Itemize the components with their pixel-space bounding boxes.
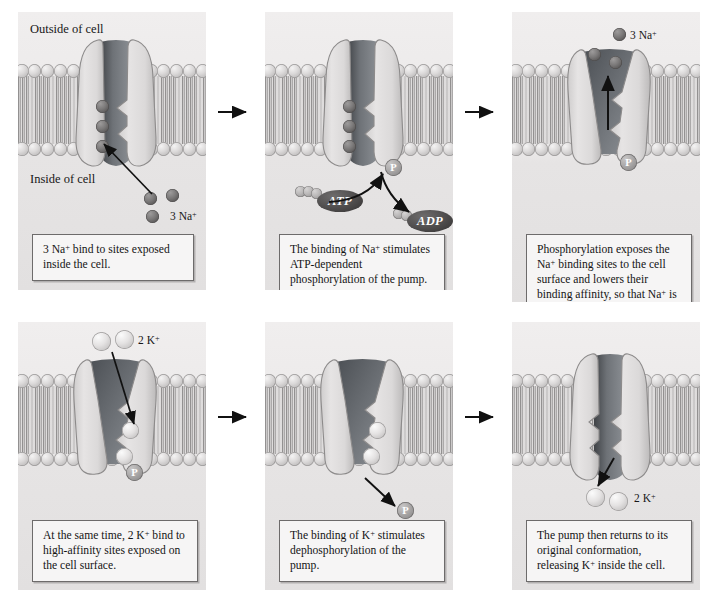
caption-step-6: The pump then returns to its original co… bbox=[526, 520, 692, 582]
outside-of-cell-label: Outside of cell bbox=[30, 22, 104, 37]
potassium-ion-label: 2 K+ bbox=[138, 334, 160, 346]
potassium-binding-arrow bbox=[104, 348, 150, 434]
bound-potassium-ion bbox=[116, 448, 133, 465]
free-potassium-ion bbox=[115, 330, 134, 349]
bound-sodium-ion bbox=[343, 120, 356, 133]
panel-step-1: Outside of cell Inside of cell 3 Na+ 3 N… bbox=[18, 12, 206, 290]
step-arrow-5-to-6 bbox=[463, 408, 503, 426]
step-arrow-4-to-5 bbox=[216, 408, 256, 426]
sodium-ion-label: 3 Na+ bbox=[170, 210, 197, 222]
panel-step-4: 2 K+ P At the same time, 2 K+ bind to hi… bbox=[18, 322, 206, 590]
caption-step-2: The binding of Na+ stimulates ATP-depend… bbox=[279, 234, 445, 290]
panel-step-3: 3 Na+ P Phosphorylation exposes the Na+ … bbox=[512, 12, 700, 302]
step-arrow-2-to-3 bbox=[463, 103, 503, 121]
bound-potassium-ion bbox=[369, 422, 386, 439]
caption-step-3: Phosphorylation exposes the Na+ binding … bbox=[526, 234, 692, 302]
potassium-release-arrow bbox=[586, 456, 628, 496]
bound-potassium-ion bbox=[363, 448, 380, 465]
dephosphorylation-arrow bbox=[361, 474, 409, 516]
caption-step-1: 3 Na+ bind to sites exposed inside the c… bbox=[32, 234, 194, 281]
panel-step-5: P The binding of K+ stimulates dephospho… bbox=[265, 322, 453, 590]
caption-step-4: At the same time, 2 K+ bind to high-affi… bbox=[32, 520, 198, 582]
bound-sodium-ion bbox=[343, 140, 356, 153]
phosphate-group: P bbox=[126, 464, 143, 481]
bound-sodium-ion bbox=[96, 120, 109, 133]
panel-step-2: P ATP ADP The binding of Na+ stimulates … bbox=[265, 12, 453, 290]
step-arrow-1-to-2 bbox=[216, 103, 256, 121]
bound-sodium-ion bbox=[343, 100, 356, 113]
released-sodium-ion bbox=[613, 28, 626, 41]
caption-step-5: The binding of K+ stimulates dephosphory… bbox=[279, 520, 445, 582]
free-sodium-ion bbox=[166, 189, 179, 202]
binding-arrow bbox=[98, 138, 162, 200]
bound-sodium-ion bbox=[96, 100, 109, 113]
sodium-efflux-arrow bbox=[596, 68, 622, 134]
na-k-pump-figure: Outside of cell Inside of cell 3 Na+ 3 N… bbox=[0, 0, 724, 602]
phosphate-group: P bbox=[620, 154, 637, 171]
free-sodium-ion bbox=[146, 210, 159, 223]
panel-step-6: 2 K+ The pump then returns to its origin… bbox=[512, 322, 700, 590]
sodium-ion-label: 3 Na+ bbox=[630, 29, 657, 41]
released-sodium-ion bbox=[588, 48, 601, 61]
inside-of-cell-label: Inside of cell bbox=[30, 172, 95, 187]
phosphorylation-arrow bbox=[305, 154, 453, 234]
potassium-ion-label: 2 K+ bbox=[634, 492, 656, 504]
